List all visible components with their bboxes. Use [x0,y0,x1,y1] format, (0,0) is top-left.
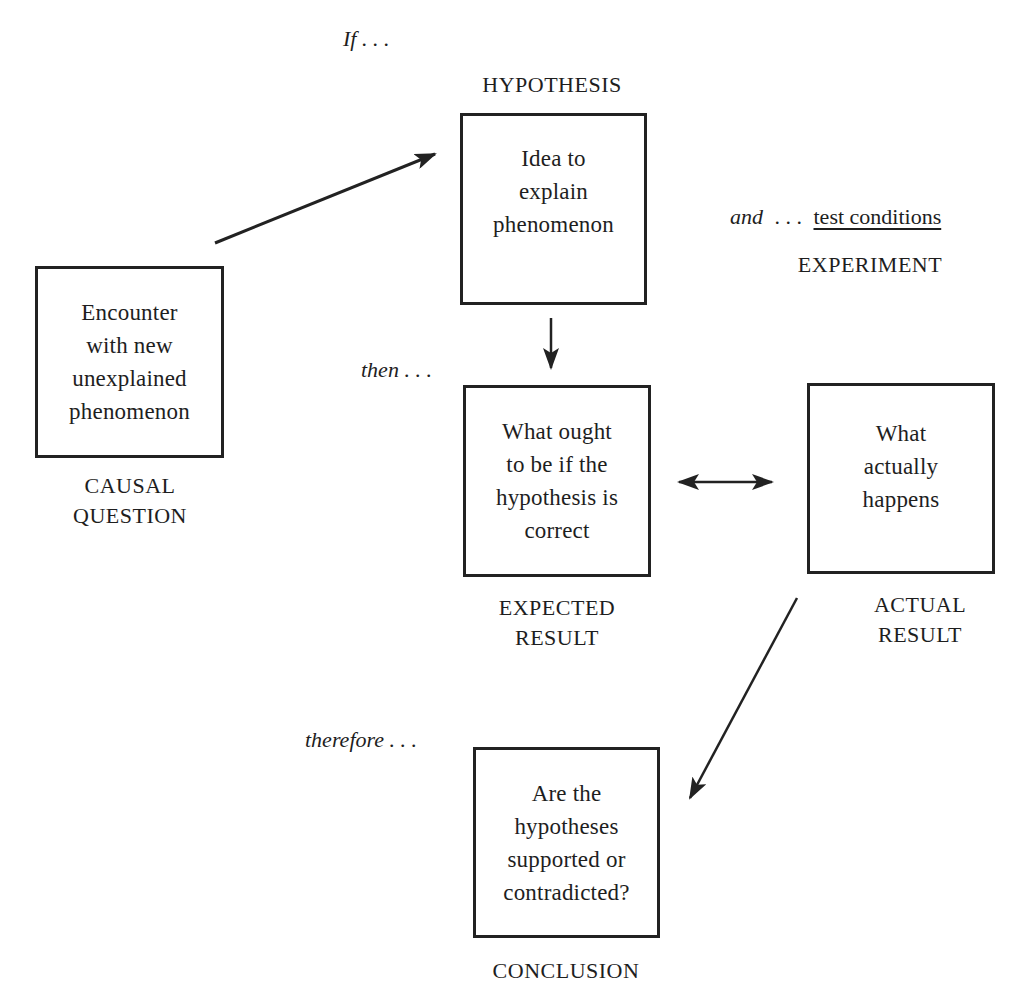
actual-result-label: ACTUAL RESULT [820,590,1020,650]
causal-question-text: Encounter with new unexplained phenomeno… [69,296,190,428]
conclusion-text: Are the hypotheses supported or contradi… [503,777,629,909]
experiment-label: EXPERIMENT [780,250,960,280]
connector-and-word: and [730,204,763,229]
causal-question-box: Encounter with new unexplained phenomeno… [35,266,224,458]
connector-then: then . . . [361,357,432,383]
connector-and: and . . . test conditions [730,204,941,230]
test-conditions-label: test conditions [814,204,942,229]
expected-result-label: EXPECTED RESULT [457,593,657,653]
expected-result-box: What ought to be if the hypothesis is co… [463,385,651,577]
actual-result-text: What actually happens [863,417,940,516]
hypothesis-label: HYPOTHESIS [452,70,652,100]
causal-question-label: CAUSAL QUESTION [30,471,230,531]
conclusion-label: CONCLUSION [456,956,676,986]
arrow-causal-to-hypothesis [215,154,435,243]
connector-therefore: therefore . . . [305,727,417,753]
conclusion-box: Are the hypotheses supported or contradi… [473,747,660,938]
actual-result-box: What actually happens [807,383,995,574]
hypothesis-box: Idea to explain phenomenon [460,113,647,305]
arrow-actual-to-conclusion [690,598,797,798]
hypothesis-text: Idea to explain phenomenon [493,142,614,241]
connector-if: If . . . [343,26,389,52]
connector-and-dots: . . . [775,204,803,229]
expected-result-text: What ought to be if the hypothesis is co… [496,415,618,547]
